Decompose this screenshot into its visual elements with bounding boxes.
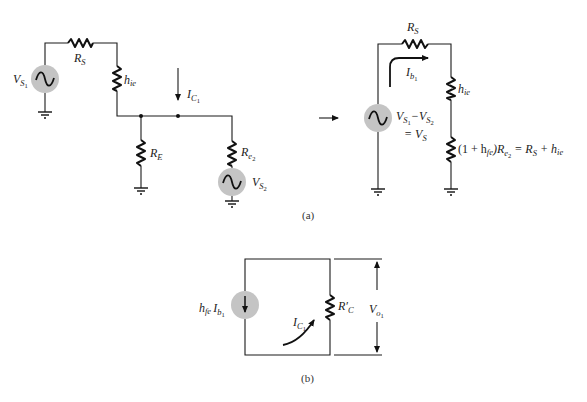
wire: [93, 43, 117, 66]
resistor-rs-icon: [68, 39, 93, 47]
ac-source-vs-icon: [364, 104, 392, 132]
ground-icon: [134, 188, 148, 194]
wire: [245, 319, 330, 355]
current-source-icon: [231, 291, 259, 319]
wire: [245, 259, 330, 295]
resistor-rc-icon: [326, 295, 334, 320]
circuit-a-right: RS Ib1 hie VS1−VS2 = VS (1 + hfe)Re2 = R…: [364, 20, 563, 195]
caption-a: (a): [302, 209, 315, 222]
resistor-hie-icon: [113, 66, 121, 91]
ground-icon: [371, 189, 385, 195]
label-re2: Re2: [240, 145, 255, 162]
label-vs-difference: VS1−VS2: [396, 109, 434, 126]
label-vs2: VS2: [252, 175, 267, 192]
circuit-b: hfeIb1 IC1 R′C Vo1: [199, 259, 384, 355]
circuit-figure: VS1 RS hie IC1 RE Re2 VS2: [0, 0, 587, 402]
label-vs1: VS1: [13, 72, 28, 89]
label-re: RE: [149, 146, 163, 162]
wire: [117, 91, 232, 141]
label-rs: RS: [406, 20, 419, 36]
label-ic1: IC1: [186, 87, 200, 104]
label-hie: hie: [458, 82, 470, 97]
label-vs-equals: = VS: [404, 127, 427, 143]
label-rc-prime: R′C: [337, 299, 354, 315]
label-vo1: Vo1: [369, 302, 384, 319]
resistor-rs-icon: [402, 40, 428, 48]
circuit-a-left: VS1 RS hie IC1 RE Re2 VS2: [13, 39, 267, 207]
ac-source-vs2-icon: [218, 168, 246, 196]
ground-icon: [225, 201, 239, 207]
label-hie: hie: [124, 73, 136, 88]
resistor-re-icon: [137, 140, 145, 166]
resistor-re2-icon: [228, 141, 236, 166]
resistor-hie-icon: [447, 77, 455, 100]
circuit-svg: VS1 RS hie IC1 RE Re2 VS2: [0, 0, 587, 402]
label-rs: RS: [73, 51, 86, 67]
label-ib1: Ib1: [405, 65, 418, 82]
caption-b: (b): [301, 372, 314, 385]
label-hfe-ib1: hfeIb1: [199, 301, 225, 318]
ground-icon: [444, 189, 458, 195]
resistor-equivalent-icon: [447, 137, 455, 162]
junction-dot: [176, 114, 180, 118]
ac-source-vs1-icon: [31, 65, 59, 93]
ground-icon: [38, 112, 52, 118]
wire: [45, 43, 68, 65]
label-ic1: IC1: [292, 315, 306, 332]
wire: [428, 44, 451, 77]
label-equivalent-resistance: (1 + hfe)Re2 = RS + hie: [458, 142, 563, 159]
junction-dot: [139, 114, 143, 118]
